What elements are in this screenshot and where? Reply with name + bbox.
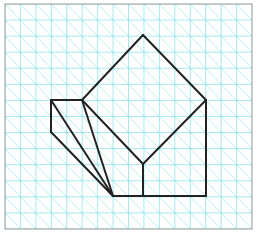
isometric-grid-diagram <box>0 0 257 238</box>
